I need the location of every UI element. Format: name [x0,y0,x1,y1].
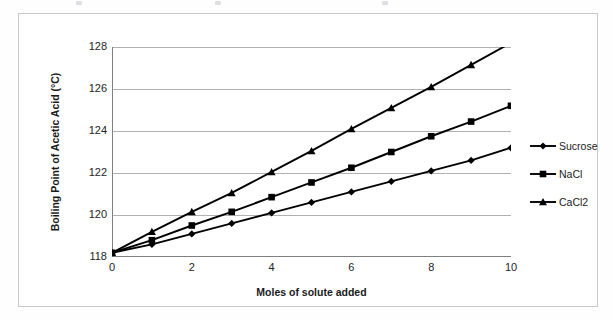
chart-frame: Boiling Point of Acetic Acid (°C) 118120… [18,13,598,307]
y-axis-tick-label: 126 [71,83,107,94]
data-point-marker [268,194,275,201]
data-point-marker [228,220,235,227]
data-point-marker [468,118,475,125]
y-axis-tick-label: 128 [71,41,107,52]
data-point-marker [427,83,435,90]
x-axis-tick-label: 8 [411,262,451,273]
legend-label: Sucrose [557,140,598,152]
data-point-marker [507,144,511,151]
data-point-marker [189,222,196,229]
data-point-marker [348,188,355,195]
x-axis-tick-label: 4 [252,262,292,273]
scan-artifact-marks [0,0,613,10]
data-point-marker [388,178,395,185]
data-point-marker [467,61,475,68]
y-axis-tick-labels: 118120122124126128 [67,47,107,257]
y-axis-tick-label: 122 [71,167,107,178]
data-point-marker [308,199,315,206]
legend-marker-triangle-icon [529,195,557,209]
chart-legend: SucroseNaClCaCl2 [529,132,609,216]
y-axis-tick-label: 120 [71,209,107,220]
data-point-marker [228,209,235,216]
series-cacl2 [112,47,511,256]
data-point-marker [348,164,355,171]
legend-marker-square-icon [529,167,557,181]
plot-area [112,47,511,257]
x-axis-tick-label: 10 [491,262,531,273]
data-point-marker [188,230,195,237]
legend-item-nacl[interactable]: NaCl [529,160,609,188]
x-axis-tick-labels: 0246810 [112,262,511,278]
data-point-marker [428,133,435,140]
series-nacl [112,103,511,257]
data-point-marker [228,189,236,196]
data-point-marker [149,237,156,244]
chart-page: Boiling Point of Acetic Acid (°C) 118120… [0,0,613,320]
x-axis-tick-label: 0 [92,262,132,273]
x-axis-tick-label: 6 [331,262,371,273]
data-point-marker [539,142,546,149]
y-axis-title: Boiling Point of Acetic Acid (°C) [47,47,63,257]
y-axis-title-text: Boiling Point of Acetic Acid (°C) [49,73,61,232]
data-point-marker [508,103,511,110]
data-point-marker [468,157,475,164]
y-axis-tick-label: 118 [71,251,107,262]
legend-item-sucrose[interactable]: Sucrose [529,132,609,160]
x-axis-title: Moles of solute added [112,286,511,298]
x-axis-tick-label: 2 [172,262,212,273]
data-point-marker [347,125,355,132]
legend-item-cacl2[interactable]: CaCl2 [529,188,609,216]
y-axis-tick-label: 124 [71,125,107,136]
data-point-marker [308,179,315,186]
legend-label: CaCl2 [557,196,588,208]
plot-svg [112,47,511,257]
data-point-marker [268,168,276,175]
legend-label: NaCl [557,168,582,180]
series-sucrose [112,144,511,256]
data-point-marker [540,171,547,178]
legend-marker-diamond-icon [529,139,557,153]
data-point-marker [387,104,395,111]
data-point-marker [388,149,395,156]
data-point-marker [308,147,316,154]
